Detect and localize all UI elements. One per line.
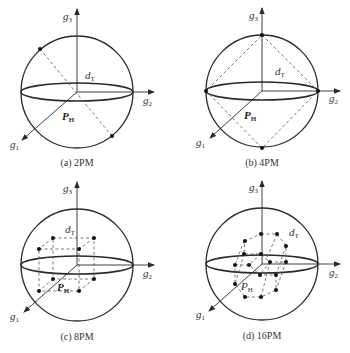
g1-label: g1: [196, 308, 206, 322]
constellation-point: [233, 263, 237, 267]
g2-label: g2: [329, 266, 339, 280]
constellation-point: [92, 277, 96, 281]
symbol-distance-line: [40, 49, 112, 136]
g1-label: g1: [10, 310, 20, 324]
constellation-point: [259, 232, 263, 236]
g1-axis-arrow: [209, 264, 262, 311]
constellation-point: [274, 273, 278, 277]
dT-label: dT: [85, 69, 96, 83]
constellation-point: [258, 273, 262, 277]
constellation-point: [259, 252, 263, 256]
g1-label: g1: [10, 138, 20, 152]
PH-label: PH: [62, 110, 75, 124]
panel-8pm: g3 g2 g1 dT PH (c) 8PM: [10, 182, 154, 343]
PH-label: PH: [240, 280, 253, 294]
constellation-point: [247, 263, 251, 267]
constellation-point: [77, 289, 81, 293]
constellation-point: [268, 260, 272, 264]
constellation-point: [316, 89, 320, 93]
PH-label: PH: [244, 109, 257, 123]
dT-label: dT: [275, 65, 286, 79]
constellation-point: [38, 47, 42, 51]
g3-label: g3: [63, 10, 73, 24]
constellation-point: [274, 288, 278, 292]
constellation-point: [110, 134, 114, 138]
constellation-point: [51, 236, 55, 240]
g1-label: g1: [196, 136, 206, 150]
g2-label: g2: [143, 94, 153, 108]
dT-label: dT: [65, 223, 76, 237]
constellation-point: [284, 260, 288, 264]
constellation-point: [51, 277, 55, 281]
constellation-point: [242, 252, 246, 256]
caption-2pm: (a) 2PM: [60, 157, 93, 169]
constellation-point: [260, 33, 264, 37]
caption-16pm: (d) 16PM: [243, 330, 282, 342]
constellation-point: [204, 89, 208, 93]
constellation-point: [92, 236, 96, 240]
caption-4pm: (b) 4PM: [245, 157, 279, 169]
panel-16pm: g3 g2 g1 dT PH (d) 16PM: [196, 181, 340, 342]
panel-4pm: g3 g2 g1 dT PH (b) 4PM: [196, 8, 340, 169]
g3-label: g3: [249, 9, 259, 23]
dT-label: dT: [289, 226, 300, 240]
g3-label: g3: [249, 181, 259, 195]
constellation-point: [243, 239, 247, 243]
constellation-point: [77, 247, 81, 251]
constellation-point: [37, 289, 41, 293]
constellation-point: [233, 282, 237, 286]
constellation-point: [260, 146, 264, 150]
constellation-point: [275, 232, 279, 236]
pm-constellation-figure: g3 g2 g1 dT PH (a) 2PM g3 g2 g1 dT PH (b…: [0, 0, 350, 353]
PH-label: PH: [57, 281, 70, 295]
constellation-point: [37, 247, 41, 251]
g2-label: g2: [143, 267, 153, 281]
constellation-point: [243, 295, 247, 299]
caption-8pm: (c) 8PM: [60, 331, 93, 343]
g3-label: g3: [63, 182, 73, 196]
panel-2pm: g3 g2 g1 dT PH (a) 2PM: [10, 9, 154, 169]
constellation-point: [259, 295, 263, 299]
symbol-cube: [39, 238, 94, 291]
g2-label: g2: [329, 92, 339, 106]
constellation-point: [284, 244, 288, 248]
